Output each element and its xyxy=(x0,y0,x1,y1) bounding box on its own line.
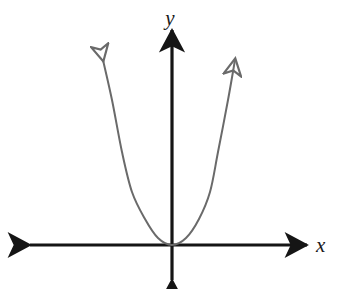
x-axis-label: x xyxy=(315,233,326,257)
y-axis-label: y xyxy=(163,6,175,30)
graph-canvas: x y xyxy=(0,0,337,289)
parabola-figure: x y xyxy=(0,0,337,289)
